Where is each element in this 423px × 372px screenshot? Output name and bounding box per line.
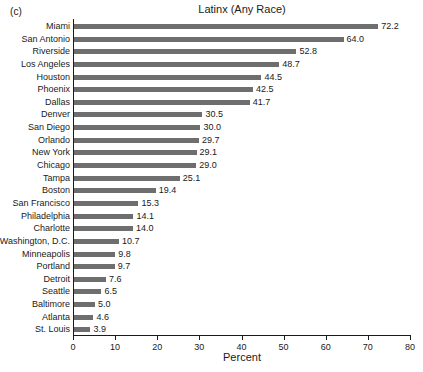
bar xyxy=(74,252,115,257)
bar-value-label: 3.9 xyxy=(93,323,106,336)
x-tick xyxy=(326,335,327,340)
category-label: Charlotte xyxy=(33,222,70,235)
category-label: Phoenix xyxy=(37,83,70,96)
x-tick xyxy=(410,335,411,340)
bar xyxy=(74,87,253,92)
bar xyxy=(74,201,138,206)
bar xyxy=(74,49,296,54)
x-tick xyxy=(73,335,74,340)
category-label: Baltimore xyxy=(32,298,70,311)
bar xyxy=(74,289,101,294)
category-label: Riverside xyxy=(32,45,70,58)
bar xyxy=(74,327,90,332)
category-label: San Antonio xyxy=(21,33,70,46)
category-label: Portland xyxy=(36,260,70,273)
bar xyxy=(74,176,180,181)
category-label: Minneapolis xyxy=(22,248,70,261)
bar xyxy=(74,62,279,67)
bar xyxy=(74,100,250,105)
category-label: Washington, D.C. xyxy=(0,235,70,248)
category-label: New York xyxy=(32,146,70,159)
category-label: Los Angeles xyxy=(21,58,70,71)
bar xyxy=(74,112,202,117)
bar xyxy=(74,188,156,193)
x-tick xyxy=(242,335,243,340)
x-tick xyxy=(368,335,369,340)
bar xyxy=(74,138,199,143)
chart-title: Latinx (Any Race) xyxy=(73,3,411,16)
bar xyxy=(74,150,197,155)
category-label: Atlanta xyxy=(42,311,70,324)
bar xyxy=(74,239,119,244)
category-label: Boston xyxy=(42,184,70,197)
bar xyxy=(74,37,344,42)
x-tick xyxy=(284,335,285,340)
bar xyxy=(74,75,261,80)
category-label: Miami xyxy=(46,20,70,33)
category-label: Detroit xyxy=(43,273,70,286)
bar xyxy=(74,163,196,168)
bar xyxy=(74,264,115,269)
bar xyxy=(74,302,95,307)
x-tick xyxy=(115,335,116,340)
category-label: Philadelphia xyxy=(21,210,70,223)
category-label: St. Louis xyxy=(35,323,70,336)
plot-area: Miami72.2San Antonio64.0Riverside52.8Los… xyxy=(73,19,410,335)
category-label: Chicago xyxy=(37,159,70,172)
category-label: Seattle xyxy=(42,285,70,298)
category-label: Orlando xyxy=(38,134,70,147)
bar xyxy=(74,315,93,320)
bar xyxy=(74,277,106,282)
x-axis-title: Percent xyxy=(73,351,411,364)
x-tick xyxy=(199,335,200,340)
category-label: Houston xyxy=(36,71,70,84)
figure-panel: (c) Latinx (Any Race) Miami72.2San Anton… xyxy=(0,0,423,372)
category-label: San Francisco xyxy=(12,197,70,210)
bar xyxy=(74,214,133,219)
category-label: Dallas xyxy=(45,96,70,109)
bar xyxy=(74,226,133,231)
bar xyxy=(74,24,378,29)
category-label: Tampa xyxy=(43,172,70,185)
x-tick xyxy=(157,335,158,340)
bar xyxy=(74,125,200,130)
panel-label: (c) xyxy=(10,6,22,18)
category-label: Denver xyxy=(41,108,70,121)
category-label: San Diego xyxy=(28,121,70,134)
